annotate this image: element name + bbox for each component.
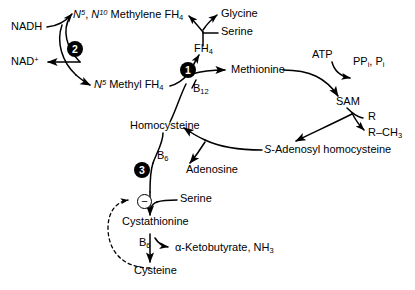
label-r: R bbox=[368, 111, 376, 122]
label-b12: B12 bbox=[193, 83, 209, 95]
label-atp: ATP bbox=[312, 49, 333, 60]
enzyme-step-badge-1: 1 bbox=[180, 62, 196, 78]
enzyme-step-badge-2: 2 bbox=[67, 41, 83, 57]
label-alpha-ketobutyrate: α-Ketobutyrate, NH3 bbox=[175, 242, 274, 254]
label-homocysteine: Homocysteine bbox=[130, 120, 200, 131]
label-serine-top: Serine bbox=[221, 26, 253, 37]
label-b6-lower: B6 bbox=[139, 237, 151, 249]
enzyme-step-badge-3: 3 bbox=[134, 162, 150, 178]
label-sam: SAM bbox=[336, 96, 360, 107]
label-cysteine: Cysteine bbox=[134, 265, 177, 276]
label-s-adenosyl-homocysteine: S-Adenosyl homocysteine bbox=[264, 144, 391, 155]
inhibition-minus-icon: − bbox=[137, 194, 152, 209]
label-cystathionine: Cystathionine bbox=[122, 216, 189, 227]
label-fh4: FH4 bbox=[194, 43, 213, 55]
label-b6-upper: B6 bbox=[157, 150, 169, 162]
label-methylene-fh4: N5, N10 Methylene FH4 bbox=[73, 9, 183, 21]
label-ppi-pi: PPi, Pi bbox=[353, 56, 384, 68]
label-nad-plus: NAD+ bbox=[11, 56, 39, 67]
metabolic-pathway-diagram: NADH NAD+ N5, N10 Methylene FH4 N5 Methy… bbox=[0, 0, 415, 290]
label-glycine: Glycine bbox=[221, 8, 258, 19]
label-adenosine: Adenosine bbox=[186, 164, 238, 175]
label-r-ch3: R–CH3 bbox=[368, 127, 402, 139]
label-serine-lower: Serine bbox=[180, 193, 212, 204]
label-methionine: Methionine bbox=[231, 64, 285, 75]
label-nadh: NADH bbox=[11, 21, 42, 32]
label-methyl-fh4: N5 Methyl FH4 bbox=[94, 79, 163, 91]
